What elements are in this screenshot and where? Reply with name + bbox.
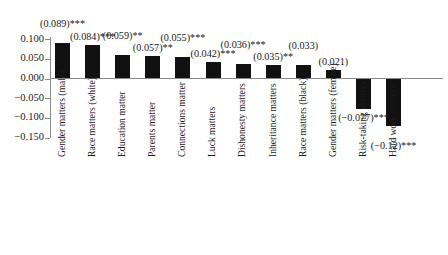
bar [266,65,281,79]
x-axis-category-label: Risk-taking matters [358,82,368,157]
bar-value-label: (0.089)*** [20,18,106,29]
x-axis-category-label: Parents matter [147,102,157,157]
bar [145,56,160,78]
x-axis-category-label: Education matter [117,91,127,157]
y-axis-tick-label-text: −0.100 [0,112,44,122]
x-axis-category-label: Race matters (black) [298,78,308,157]
y-axis-tick-label-text: 0.050 [0,53,44,63]
bar-value-label: (0.033) [260,40,346,51]
y-axis-tick-label: −0.050 [0,93,44,103]
y-axis-tick [45,138,50,139]
y-axis-tick-label-text: −0.050 [0,93,44,103]
y-axis-tick [45,98,50,99]
x-axis-category-label: Inheritance matters [268,83,278,157]
x-axis-category-label: Gender matters (female) [328,63,338,157]
bar [175,57,190,79]
x-axis-category-label: Gender matters (male) [57,71,67,157]
x-axis-category-label: Connections matter [177,82,187,157]
bar [206,62,221,79]
x-axis-category-label: Race matters (white) [87,77,97,157]
bar [115,55,130,78]
bar-chart-figure: 0.1000.0500.000−0.050−0.100−0.150 (0.089… [0,0,448,255]
bar [85,45,100,78]
y-axis-tick-label-text: 0.100 [0,34,44,44]
y-axis-line [50,37,51,138]
y-axis-tick-label: 0.000 [0,73,44,83]
y-axis-tick-label: −0.100 [0,112,44,122]
x-axis-category-label: Hard work matters [388,85,398,157]
y-axis-tick-label: 0.100 [0,34,44,44]
x-axis-category-label: Luck matters [207,107,217,157]
bar [236,64,251,78]
y-axis-tick-label-text: 0.000 [0,73,44,83]
y-axis-tick-label: 0.050 [0,53,44,63]
y-axis-tick [45,79,50,80]
y-axis-tick [45,118,50,119]
x-axis-category-label: Dishonesty matters [237,83,247,157]
y-axis-tick-label-text: −0.150 [0,132,44,142]
y-axis-tick-label: −0.150 [0,132,44,142]
y-axis-tick [45,59,50,60]
bar [296,65,311,78]
